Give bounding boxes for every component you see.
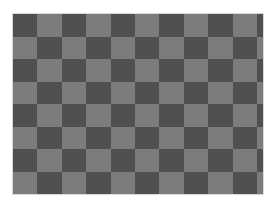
light-square (135, 149, 159, 172)
light-square (135, 14, 159, 37)
dark-square (62, 104, 86, 127)
light-square (257, 127, 263, 149)
dark-square (111, 104, 135, 127)
dark-square (135, 127, 159, 149)
dark-square (37, 82, 62, 104)
light-square (159, 82, 184, 104)
dark-square (62, 59, 86, 82)
dark-square (135, 82, 159, 104)
dark-square (257, 149, 263, 172)
dark-square (37, 127, 62, 149)
dark-square (86, 172, 111, 194)
light-square (184, 14, 208, 37)
light-square (233, 149, 257, 172)
light-square (159, 172, 184, 194)
dark-square (111, 14, 135, 37)
light-square (159, 127, 184, 149)
dark-square (37, 37, 62, 59)
dark-square (159, 59, 184, 82)
light-square (111, 37, 135, 59)
light-square (37, 104, 62, 127)
dark-square (233, 127, 257, 149)
dark-square (13, 149, 37, 172)
dark-square (233, 82, 257, 104)
dark-square (208, 104, 233, 127)
dark-square (159, 104, 184, 127)
light-square (13, 172, 37, 194)
dark-square (111, 59, 135, 82)
light-square (86, 149, 111, 172)
light-square (257, 172, 263, 194)
light-square (208, 37, 233, 59)
dark-square (62, 14, 86, 37)
dark-square (208, 14, 233, 37)
light-square (62, 127, 86, 149)
dark-square (13, 104, 37, 127)
light-square (37, 14, 62, 37)
dark-square (184, 82, 208, 104)
light-square (62, 82, 86, 104)
light-square (37, 59, 62, 82)
dark-square (184, 127, 208, 149)
light-square (159, 37, 184, 59)
light-square (86, 104, 111, 127)
dark-square (184, 37, 208, 59)
light-square (13, 37, 37, 59)
light-square (62, 172, 86, 194)
dark-square (184, 172, 208, 194)
light-square (111, 127, 135, 149)
dark-square (208, 149, 233, 172)
dark-square (135, 172, 159, 194)
light-square (257, 82, 263, 104)
dark-square (13, 14, 37, 37)
dark-square (111, 149, 135, 172)
dark-square (159, 14, 184, 37)
light-square (135, 59, 159, 82)
light-square (233, 14, 257, 37)
dark-square (233, 172, 257, 194)
light-square (184, 149, 208, 172)
dark-square (159, 149, 184, 172)
light-square (62, 37, 86, 59)
light-square (13, 82, 37, 104)
dark-square (257, 59, 263, 82)
light-square (184, 104, 208, 127)
dark-square (208, 59, 233, 82)
light-square (86, 14, 111, 37)
dark-square (233, 37, 257, 59)
dark-square (86, 82, 111, 104)
light-square (257, 37, 263, 59)
light-square (37, 149, 62, 172)
dark-square (257, 104, 263, 127)
light-square (111, 172, 135, 194)
light-square (208, 172, 233, 194)
light-square (233, 59, 257, 82)
light-square (86, 59, 111, 82)
light-square (208, 127, 233, 149)
light-square (184, 59, 208, 82)
light-square (233, 104, 257, 127)
dark-square (86, 37, 111, 59)
light-square (13, 127, 37, 149)
checkerboard (13, 14, 263, 194)
light-square (208, 82, 233, 104)
dark-square (86, 127, 111, 149)
dark-square (135, 37, 159, 59)
dark-square (257, 14, 263, 37)
light-square (135, 104, 159, 127)
dark-square (13, 59, 37, 82)
light-square (111, 82, 135, 104)
dark-square (37, 172, 62, 194)
dark-square (62, 149, 86, 172)
